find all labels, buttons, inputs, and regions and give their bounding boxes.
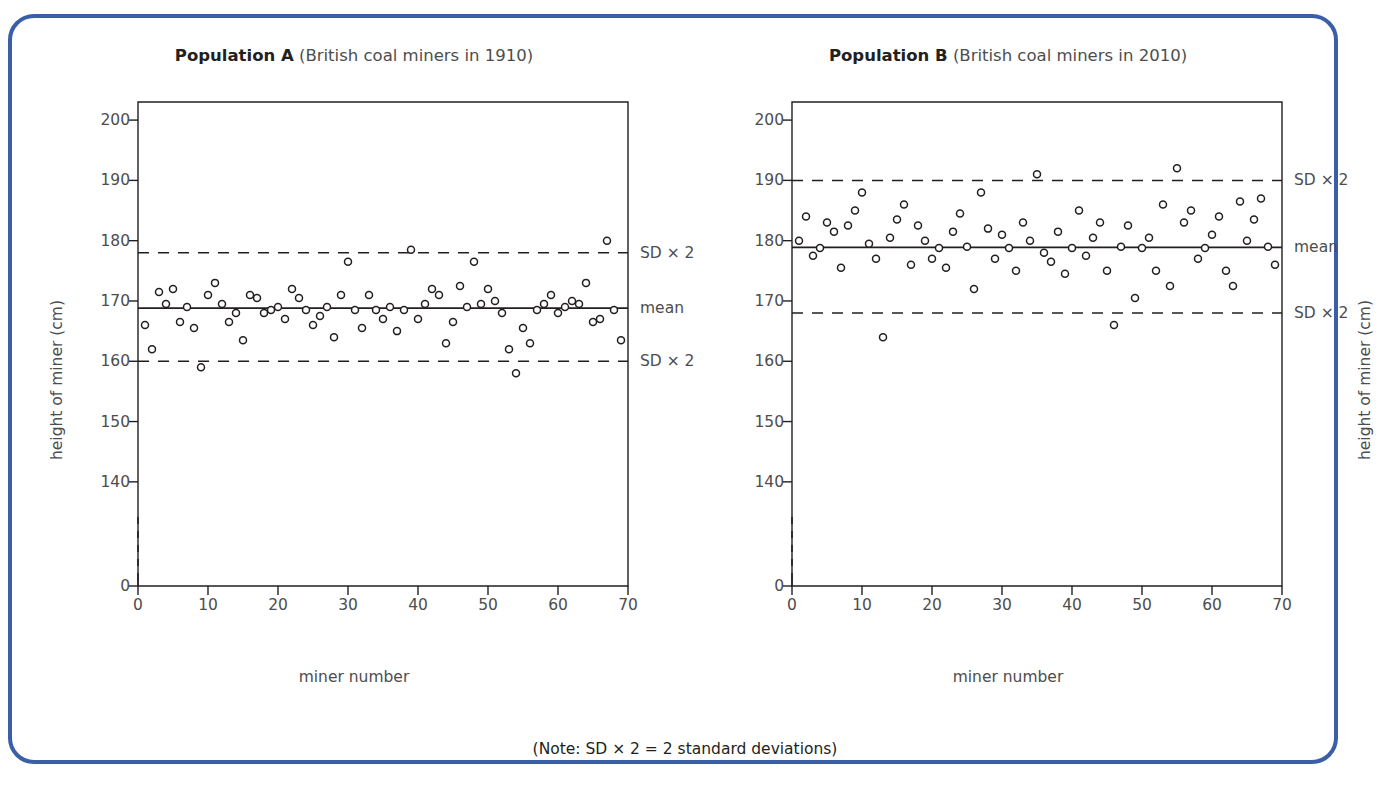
- x-tick-label-10: 10: [852, 596, 872, 614]
- data-point: [1174, 165, 1181, 172]
- x-tick-label-60: 60: [548, 596, 568, 614]
- data-point: [1076, 207, 1083, 214]
- panel-b-plot-svg: [792, 102, 1282, 586]
- data-points: [796, 165, 1279, 341]
- data-point: [1083, 252, 1090, 259]
- data-point: [943, 264, 950, 271]
- data-points: [142, 237, 625, 377]
- data-point: [1097, 219, 1104, 226]
- y-tick-label-160: 160: [738, 352, 784, 370]
- x-tick-label-10: 10: [198, 596, 218, 614]
- data-point: [831, 228, 838, 235]
- y-tick-label-200: 200: [84, 111, 130, 129]
- data-point: [978, 189, 985, 196]
- data-point: [317, 313, 324, 320]
- data-point: [184, 304, 191, 311]
- panel-a-plot-svg: [138, 102, 628, 586]
- data-point: [303, 307, 310, 314]
- data-point: [880, 334, 887, 341]
- sd-upper-label: SD × 2: [1294, 171, 1348, 189]
- data-point: [611, 307, 618, 314]
- data-point: [422, 300, 429, 307]
- data-point: [1125, 222, 1132, 229]
- data-point: [450, 319, 457, 326]
- data-point: [1251, 216, 1258, 223]
- data-point: [576, 300, 583, 307]
- data-point: [1118, 243, 1125, 250]
- data-point: [803, 213, 810, 220]
- data-point: [191, 325, 198, 332]
- data-point: [240, 337, 247, 344]
- data-point: [457, 282, 464, 289]
- y-tick-label-160: 160: [84, 352, 130, 370]
- data-point: [936, 244, 943, 251]
- data-point: [1244, 237, 1251, 244]
- data-point: [394, 328, 401, 335]
- data-point: [583, 279, 590, 286]
- y-tick-label-180: 180: [84, 232, 130, 250]
- panel-a-x-tick-labels: 010203040506070: [138, 596, 628, 624]
- plot-frame: [138, 102, 628, 586]
- data-point: [177, 319, 184, 326]
- data-point: [401, 307, 408, 314]
- y-tick-label-180: 180: [738, 232, 784, 250]
- data-point: [999, 231, 1006, 238]
- data-point: [289, 285, 296, 292]
- data-point: [950, 228, 957, 235]
- data-point: [1181, 219, 1188, 226]
- data-point: [149, 346, 156, 353]
- data-point: [985, 225, 992, 232]
- data-point: [817, 244, 824, 251]
- data-point: [1153, 267, 1160, 274]
- data-point: [845, 222, 852, 229]
- sd-lower-label: SD × 2: [1294, 304, 1348, 322]
- panel-a-x-axis-label: miner number: [30, 668, 678, 686]
- data-point: [1069, 244, 1076, 251]
- data-point: [838, 264, 845, 271]
- data-point: [492, 297, 499, 304]
- data-point: [212, 279, 219, 286]
- data-point: [324, 304, 331, 311]
- x-tick-label-20: 20: [268, 596, 288, 614]
- x-tick-label-50: 50: [1132, 596, 1152, 614]
- data-point: [464, 304, 471, 311]
- data-point: [1020, 219, 1027, 226]
- data-point: [366, 291, 373, 298]
- panel-b-x-axis-label: miner number: [684, 668, 1332, 686]
- data-point: [205, 291, 212, 298]
- data-point: [310, 322, 317, 329]
- data-point: [873, 255, 880, 262]
- data-point: [471, 258, 478, 265]
- data-point: [282, 316, 289, 323]
- y-tick-label-170: 170: [738, 292, 784, 310]
- y-tick-label-190: 190: [84, 171, 130, 189]
- data-point: [1041, 249, 1048, 256]
- data-point: [562, 304, 569, 311]
- data-point: [1034, 171, 1041, 178]
- data-point: [1146, 234, 1153, 241]
- data-point: [429, 285, 436, 292]
- data-point: [380, 316, 387, 323]
- data-point: [852, 207, 859, 214]
- data-point: [796, 237, 803, 244]
- data-point: [929, 255, 936, 262]
- y-tick-label-170: 170: [84, 292, 130, 310]
- chart-panel-b: Population B (British coal miners in 201…: [684, 40, 1332, 730]
- figure-border: Population A (British coal miners in 191…: [8, 14, 1338, 764]
- data-point: [604, 237, 611, 244]
- data-point: [1139, 244, 1146, 251]
- y-tick-label-0: 0: [84, 577, 130, 595]
- x-tick-label-70: 70: [618, 596, 638, 614]
- data-point: [590, 319, 597, 326]
- data-point: [541, 300, 548, 307]
- data-point: [1195, 255, 1202, 262]
- data-point: [1237, 198, 1244, 205]
- panel-b-x-tick-labels: 010203040506070: [792, 596, 1282, 624]
- x-tick-label-30: 30: [992, 596, 1012, 614]
- data-point: [1055, 228, 1062, 235]
- data-point: [1090, 234, 1097, 241]
- data-point: [345, 258, 352, 265]
- data-point: [527, 340, 534, 347]
- x-tick-label-70: 70: [1272, 596, 1292, 614]
- data-point: [1223, 267, 1230, 274]
